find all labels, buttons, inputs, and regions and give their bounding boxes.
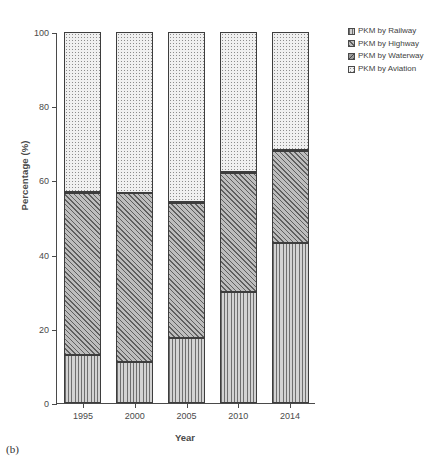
legend-swatch-icon [348,53,355,60]
bar-segment[interactable] [272,32,309,150]
chart-legend: PKM by RailwayPKM by HighwayPKM by Water… [348,25,433,75]
x-axis-title: Year [55,432,315,443]
chart-figure: Percentage (%) 0204060801001995200020052… [0,0,433,468]
legend-item-label: PKM by Highway [358,40,419,48]
legend-swatch-icon [348,40,355,47]
legend-item-label: PKM by Railway [358,27,416,35]
y-axis-tick-label: 20 [39,325,49,335]
legend-swatch-icon [348,66,355,73]
y-axis-tick [52,330,57,331]
x-axis-tick [187,403,188,408]
legend-item[interactable]: PKM by Waterway [348,50,433,63]
legend-item-label: PKM by Waterway [358,52,424,60]
x-axis-tick [290,403,291,408]
x-axis-tick-label: 2000 [125,411,145,421]
bar-segment[interactable] [64,193,101,354]
x-axis-tick [135,403,136,408]
y-axis-tick [52,404,57,405]
bar-segment[interactable] [168,32,205,202]
bar-segment[interactable] [272,243,309,403]
bar-stack[interactable] [64,32,101,403]
x-axis-tick [238,403,239,408]
y-axis-tick-label: 60 [39,176,49,186]
y-axis-tick-label: 80 [39,102,49,112]
bar-stack[interactable] [168,32,205,403]
figure-caption: (b) [6,443,19,455]
bar-segment[interactable] [168,203,205,338]
x-axis-tick-label: 2014 [280,411,300,421]
bar-segment[interactable] [272,151,309,244]
x-axis-tick-label: 2005 [176,411,196,421]
legend-item[interactable]: PKM by Aviation [348,63,433,76]
bar-segment[interactable] [220,292,257,403]
x-axis-tick-label: 2010 [228,411,248,421]
y-axis-tick [52,181,57,182]
bar-segment[interactable] [220,32,257,172]
x-axis-tick-label: 1995 [73,411,93,421]
bar-segment[interactable] [116,193,153,362]
bar-stack[interactable] [272,32,309,403]
y-axis-tick-label: 0 [44,399,49,409]
bar-segment[interactable] [64,355,101,403]
y-axis-tick [52,107,57,108]
bar-segment[interactable] [116,362,153,403]
y-axis-tick [52,256,57,257]
y-axis-tick [52,33,57,34]
legend-item-label: PKM by Aviation [358,65,416,73]
legend-item[interactable]: PKM by Highway [348,38,433,51]
plot-area: 02040608010019952000200520102014 [56,33,315,404]
bar-stack[interactable] [220,32,257,403]
bar-segment[interactable] [168,338,205,403]
bar-stack[interactable] [116,32,153,403]
y-axis-tick-label: 40 [39,251,49,261]
bar-segment[interactable] [64,32,101,192]
y-axis-title: Percentage (%) [19,116,30,236]
y-axis-tick-label: 100 [34,28,49,38]
x-axis-tick [83,403,84,408]
legend-swatch-icon [348,28,355,35]
bar-segment[interactable] [220,173,257,292]
bar-segment[interactable] [116,32,153,193]
legend-item[interactable]: PKM by Railway [348,25,433,38]
